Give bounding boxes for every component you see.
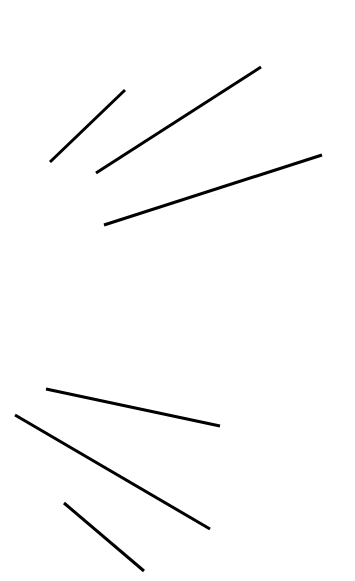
line-segment: [46, 389, 220, 426]
line-segment: [50, 90, 125, 162]
line-segment: [104, 155, 322, 225]
line-segment: [96, 67, 261, 173]
line-segment: [15, 415, 210, 529]
line-canvas: [0, 0, 355, 581]
lower-line-group: [15, 389, 220, 571]
line-segment: [64, 503, 144, 571]
upper-line-group: [50, 67, 322, 225]
